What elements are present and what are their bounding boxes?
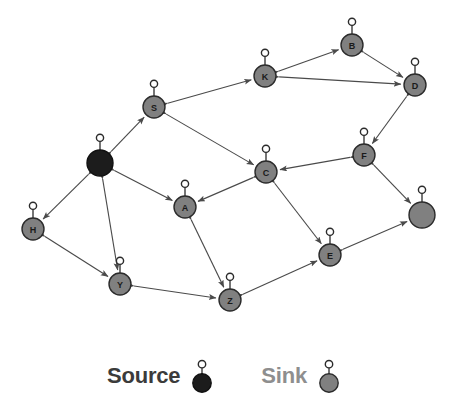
graph-node-e[interactable]: E: [319, 228, 341, 266]
graph-edge: [103, 179, 118, 270]
nodes-layer: SHYAZCKBDFE: [22, 18, 435, 311]
graph-edge: [191, 220, 224, 287]
legend-label-source: Source: [107, 365, 180, 387]
graph-edge: [168, 80, 252, 103]
node-body[interactable]: [319, 244, 341, 266]
graph-edge: [243, 261, 317, 294]
node-body[interactable]: [143, 96, 165, 118]
legend: Source Sink: [0, 352, 449, 400]
sink-node-glyph: [316, 359, 342, 393]
graph-node-z[interactable]: Z: [219, 273, 241, 311]
node-body[interactable]: [219, 289, 241, 311]
graph-edge: [166, 114, 253, 165]
graph-edge: [111, 117, 144, 151]
graph-node-c[interactable]: C: [255, 145, 277, 183]
node-body[interactable]: [22, 218, 44, 240]
node-body[interactable]: [87, 150, 113, 176]
graph-edge: [364, 53, 403, 78]
node-loop-icon: [326, 228, 333, 235]
node-body[interactable]: [409, 202, 435, 228]
graph-canvas: SHYAZCKBDFE: [0, 0, 449, 408]
node-loop-icon: [261, 49, 268, 56]
node-loop-icon: [181, 180, 188, 187]
graph-node-f[interactable]: F: [353, 128, 375, 166]
graph-node-source[interactable]: [87, 134, 113, 176]
graph-edge: [134, 286, 216, 298]
node-loop-icon: [262, 145, 269, 152]
graph-node-k[interactable]: K: [254, 49, 276, 87]
source-node-glyph: [189, 359, 215, 393]
graph-node-a[interactable]: A: [174, 180, 196, 218]
node-loop-icon: [360, 128, 367, 135]
graph-edge: [114, 170, 172, 200]
node-loop-icon: [418, 186, 425, 193]
graph-edge: [198, 178, 253, 202]
graph-edge: [43, 174, 88, 219]
node-loop-icon: [226, 273, 233, 280]
graph-edge: [280, 157, 350, 169]
node-loop-icon: [150, 80, 157, 87]
node-body[interactable]: [174, 196, 196, 218]
graph-edge: [279, 77, 401, 84]
graph-node-b[interactable]: B: [341, 18, 363, 56]
graph-diagram: SHYAZCKBDFE: [0, 0, 449, 408]
node-body[interactable]: [255, 161, 277, 183]
node-loop-icon: [116, 257, 123, 264]
node-loop-icon: [411, 58, 418, 65]
legend-label-sink: Sink: [261, 365, 307, 387]
node-loop-icon: [29, 202, 36, 209]
node-body[interactable]: [341, 34, 363, 56]
legend-item-source: Source: [107, 359, 215, 393]
graph-edge: [343, 221, 407, 249]
graph-node-y[interactable]: Y: [109, 257, 131, 295]
legend-item-sink: Sink: [261, 359, 342, 393]
graph-node-sink[interactable]: [409, 186, 435, 228]
node-body[interactable]: [404, 74, 426, 96]
graph-edge: [45, 237, 108, 277]
graph-edge: [275, 183, 322, 244]
graph-edge: [374, 165, 411, 203]
node-body[interactable]: [254, 65, 276, 87]
node-body[interactable]: [353, 144, 375, 166]
graph-node-s[interactable]: S: [143, 80, 165, 118]
graph-edge: [372, 96, 406, 143]
node-body[interactable]: [109, 273, 131, 295]
graph-node-h[interactable]: H: [22, 202, 44, 240]
graph-edge: [278, 50, 338, 71]
node-loop-icon: [96, 134, 103, 141]
graph-node-d[interactable]: D: [404, 58, 426, 96]
node-loop-icon: [348, 18, 355, 25]
